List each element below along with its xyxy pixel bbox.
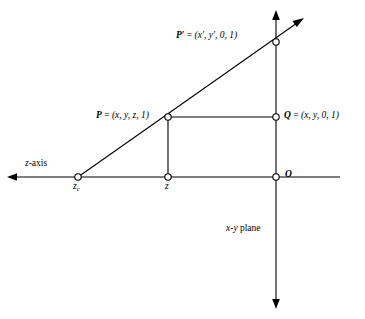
marker-q <box>273 114 279 120</box>
label-origin: O <box>285 170 292 180</box>
construction-rectangle <box>168 117 276 177</box>
label-p-coords: (x, y, z, 1) <box>112 110 149 120</box>
label-p-prime-equals: = <box>187 30 195 40</box>
marker-origin <box>273 174 279 180</box>
label-p-prime-coords: (x′, y′, 0, 1) <box>195 30 238 40</box>
vertical-axis-arrow-down-icon <box>272 299 280 309</box>
label-z-c: zc <box>73 182 80 193</box>
label-z-letter: z <box>165 181 169 191</box>
projection-diagram <box>0 0 365 319</box>
label-p-equals: = <box>104 110 112 120</box>
label-z-c-subscript: c <box>77 185 80 193</box>
projection-ray-arrow-icon <box>293 18 305 27</box>
label-origin-name: O <box>285 169 292 179</box>
label-z: z <box>165 182 169 192</box>
z-axis-arrow-left-icon <box>7 173 17 181</box>
label-z-axis-suffix: -axis <box>29 158 47 168</box>
label-q: Q = (x, y, 0, 1) <box>284 111 339 121</box>
label-xy-plane-suffix: plane <box>238 223 261 233</box>
marker-z-c <box>75 174 81 180</box>
vertical-axis-line <box>272 10 280 309</box>
marker-z <box>165 174 171 180</box>
label-q-name: Q <box>284 110 291 120</box>
label-p-name: P <box>96 110 102 120</box>
label-q-equals: = <box>293 110 301 120</box>
marker-p-prime <box>273 39 279 45</box>
label-p-prime: P′ = (x′, y′, 0, 1) <box>176 31 237 41</box>
label-z-axis: z-axis <box>25 159 47 169</box>
projection-ray <box>78 18 304 177</box>
label-xy-plane: x-y plane <box>226 224 261 234</box>
label-p-prime-name: P′ <box>176 30 184 40</box>
vertical-axis-arrow-up-icon <box>272 10 280 20</box>
label-q-coords: (x, y, 0, 1) <box>301 110 339 120</box>
label-p: P = (x, y, z, 1) <box>96 111 149 121</box>
marker-p <box>165 114 171 120</box>
